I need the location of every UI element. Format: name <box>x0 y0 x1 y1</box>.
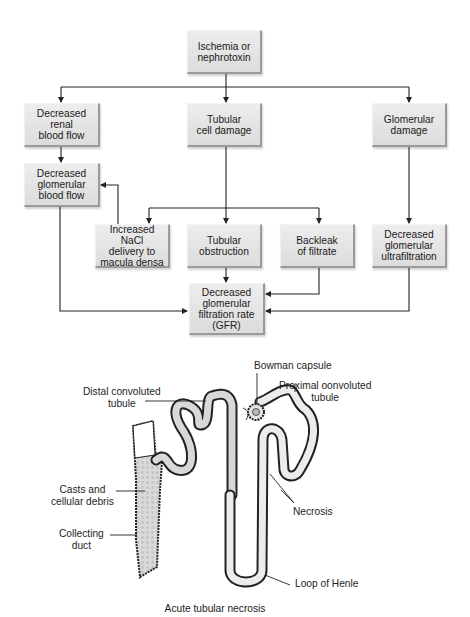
node-label: Decreased glomerular filtration rate (GF… <box>198 287 254 331</box>
distal-tubule-shape <box>156 394 232 495</box>
label-necrosis: Necrosis <box>293 506 333 518</box>
label-proximal-convoluted-tubule: Proximal oonvoluted tubule <box>279 380 371 403</box>
node-label: Decreased glomerular ultrafiltration <box>381 229 437 262</box>
node-label: Increased NaCl delivery to macula densa <box>98 224 166 268</box>
collecting-duct-shape <box>133 421 162 577</box>
node-decreased-glomerular-ultrafiltration: Decreased glomerular ultrafiltration <box>372 224 447 268</box>
node-tubular-obstruction: Tubular obstruction <box>187 224 262 268</box>
glomerulus-shape <box>243 404 264 420</box>
node-decreased-gfr: Decreased glomerular filtration rate (GF… <box>189 283 265 335</box>
label-casts-and-cellular-debris: Casts and cellular debris <box>51 484 114 507</box>
node-label: Backleak of filtrate <box>296 235 337 257</box>
node-label: Decreased glomerular blood flow <box>37 168 86 201</box>
node-label: Tubular obstruction <box>199 235 249 257</box>
figure-caption: Acute tubular necrosis <box>0 603 430 614</box>
node-backleak-of-filtrate: Backleak of filtrate <box>280 224 355 268</box>
node-decreased-renal-blood-flow: Decreased renal blood flow <box>24 103 100 147</box>
label-collecting-duct: Collecting duct <box>59 528 104 551</box>
label-loop-of-henle: Loop of Henle <box>295 578 358 590</box>
node-label: Ischemia or nephrotoxin <box>197 41 250 63</box>
node-decreased-glomerular-blood-flow: Decreased glomerular blood flow <box>24 163 100 207</box>
pathophysiology-flowchart: Ischemia or nephrotoxin Decreased renal … <box>0 0 470 345</box>
label-distal-convoluted-tubule: Distal convoluted tubule <box>83 386 161 409</box>
node-ischemia-or-nephrotoxin: Ischemia or nephrotoxin <box>187 30 262 74</box>
node-label: Tubular cell damage <box>197 114 252 136</box>
node-label: Glomerular damage <box>384 114 434 136</box>
label-bowman-capsule: Bowman capsule <box>254 360 332 372</box>
node-increased-nacl-delivery: Increased NaCl delivery to macula densa <box>95 224 170 268</box>
loop-of-henle-shape <box>230 390 314 582</box>
node-glomerular-damage: Glomerular damage <box>372 103 447 147</box>
node-label: Decreased renal blood flow <box>27 108 96 141</box>
node-tubular-cell-damage: Tubular cell damage <box>187 103 262 147</box>
